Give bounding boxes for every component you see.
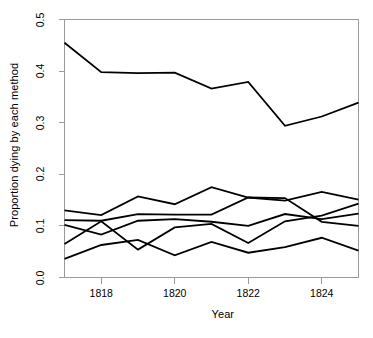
y-tick-label: 0.4: [32, 56, 48, 86]
x-tick-label: 1818: [71, 287, 131, 299]
y-tick-label: 0.1: [32, 211, 48, 241]
x-axis-title: Year: [212, 308, 235, 320]
x-tick-label: 1820: [145, 287, 205, 299]
x-tick-label: 1824: [292, 287, 352, 299]
x-tick-label: 1822: [218, 287, 278, 299]
chart-figure: Proportion dying by each method Year 181…: [0, 0, 373, 338]
y-tick-label: 0.2: [32, 159, 48, 189]
y-tick-label: 0.0: [32, 263, 48, 293]
y-tick-label: 0.3: [32, 108, 48, 138]
y-axis-title-container: Proportion dying by each method: [0, 0, 28, 290]
y-axis-title: Proportion dying by each method: [8, 63, 20, 228]
y-tick-label: 0.5: [32, 5, 48, 35]
